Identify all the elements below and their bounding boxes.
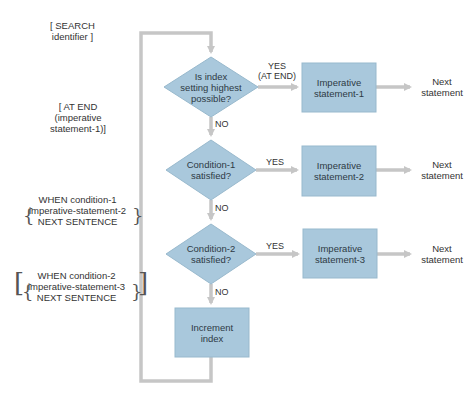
process-4-label: Increment index xyxy=(175,308,249,357)
syntax-when1-line3: NEXT SENTENCE xyxy=(29,216,126,227)
next-1-line1: Next xyxy=(414,76,470,87)
process-2-line1: Imperative xyxy=(317,160,361,171)
decision-3-line2: satisfied? xyxy=(191,254,231,265)
yes-at-end-label: YES (AT END) xyxy=(252,61,302,81)
process-1-line2: statement-1 xyxy=(314,88,364,99)
no-label-2: NO xyxy=(215,203,229,213)
syntax-when-2: WHEN condition-2 imperative-statement-3 … xyxy=(28,270,125,303)
syntax-when2-line2: imperative-statement-3 xyxy=(28,281,125,292)
syntax-at-end-line2: (imperative xyxy=(50,112,106,123)
process-3-label: Imperative statement-3 xyxy=(303,229,377,278)
process-4-line1: Increment xyxy=(191,322,233,333)
syntax-when1-line2: imperative-statement-2 xyxy=(29,205,126,216)
syntax-at-end-line3: statement-1)] xyxy=(50,123,106,134)
decision-1-line2: setting highest xyxy=(180,82,241,93)
next-3-line1: Next xyxy=(414,243,470,254)
syntax-when2-line3: NEXT SENTENCE xyxy=(28,292,125,303)
process-1-label: Imperative statement-1 xyxy=(302,63,376,112)
process-2-label: Imperative statement-2 xyxy=(302,146,376,196)
no-label-1: NO xyxy=(215,119,229,129)
decision-1-line3: possible? xyxy=(191,93,231,104)
at-end-label: (AT END) xyxy=(252,71,302,81)
decision-1-line1: Is index xyxy=(195,71,228,82)
decision-1-label: Is index setting highest possible? xyxy=(164,67,258,107)
process-4-line2: index xyxy=(201,333,224,344)
yes-label-3: YES xyxy=(260,241,290,251)
syntax-search: [ SEARCH identifier ] xyxy=(50,20,95,42)
syntax-when-1: WHEN condition-1 imperative-statement-2 … xyxy=(29,194,126,227)
process-2-line2: statement-2 xyxy=(314,171,364,182)
decision-3-label: Condition-2 satisfied? xyxy=(166,239,256,269)
process-3-line2: statement-3 xyxy=(315,254,365,265)
yes-label-2: YES xyxy=(260,157,290,167)
process-3-line1: Imperative xyxy=(318,243,362,254)
next-statement-1: Next statement xyxy=(414,76,470,98)
syntax-search-line1: [ SEARCH xyxy=(50,20,95,31)
syntax-at-end: [ AT END (imperative statement-1)] xyxy=(50,101,106,134)
yes-label-1: YES xyxy=(252,61,302,71)
brace-right-when1: } xyxy=(132,205,143,226)
next-2-line2: statement xyxy=(414,170,470,181)
next-3-line2: statement xyxy=(414,254,470,265)
brace-left-when2: { xyxy=(22,281,33,302)
syntax-search-line2: identifier ] xyxy=(50,31,95,42)
syntax-when2-line1: WHEN condition-2 xyxy=(28,270,125,281)
next-statement-2: Next statement xyxy=(414,159,470,181)
next-2-line1: Next xyxy=(414,159,470,170)
no-label-3: NO xyxy=(215,287,229,297)
decision-2-line1: Condition-1 xyxy=(187,159,236,170)
syntax-when1-line1: WHEN condition-1 xyxy=(29,194,126,205)
brace-left-when1: { xyxy=(23,205,34,226)
decision-3-line1: Condition-2 xyxy=(187,243,236,254)
decision-2-line2: satisfied? xyxy=(191,170,231,181)
next-statement-3: Next statement xyxy=(414,243,470,265)
process-1-line1: Imperative xyxy=(317,77,361,88)
bracket-right-when2: ] xyxy=(138,268,148,298)
next-1-line2: statement xyxy=(414,87,470,98)
syntax-at-end-line1: [ AT END xyxy=(50,101,106,112)
decision-2-label: Condition-1 satisfied? xyxy=(166,155,256,185)
